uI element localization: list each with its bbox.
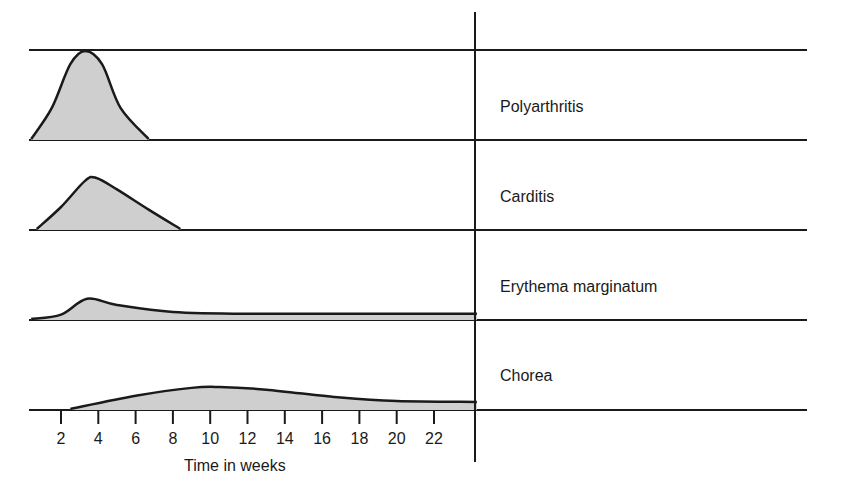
x-tick-label: 18 [344,430,374,448]
x-axis-title: Time in weeks [184,457,286,475]
x-tick-label: 6 [121,430,151,448]
curve-fill [31,298,477,320]
curve-fill [31,51,148,140]
x-axis-ticks [61,410,434,424]
x-tick-label: 10 [195,430,225,448]
x-tick-label: 12 [233,430,263,448]
x-tick-label: 16 [307,430,337,448]
x-tick-label: 22 [419,430,449,448]
row-label-polyarthritis: Polyarthritis [500,98,584,116]
x-tick-label: 20 [382,430,412,448]
x-tick-label: 2 [46,430,76,448]
x-tick-label: 14 [270,430,300,448]
x-tick-label: 8 [158,430,188,448]
chart-canvas [0,0,844,500]
x-tick-label: 4 [83,430,113,448]
row-label-erythema-marginatum: Erythema marginatum [500,278,657,296]
row-label-chorea: Chorea [500,367,552,385]
row-label-carditis: Carditis [500,188,554,206]
